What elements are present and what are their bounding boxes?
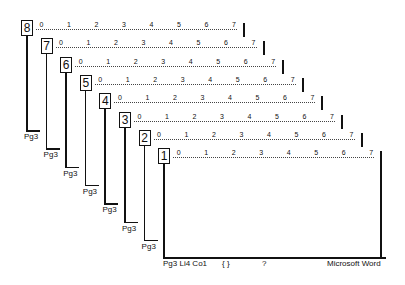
ruler-tick-label: 4: [247, 113, 252, 120]
ruler-tick-label: 2: [172, 94, 177, 101]
page-number-box: 1: [158, 148, 170, 164]
ruler: 01234567: [134, 113, 335, 122]
ruler-tick-label: 4: [227, 94, 232, 101]
ruler-tick-label: 0: [157, 131, 162, 138]
page-right-edge: [361, 133, 363, 147]
page-number-box: 6: [60, 57, 72, 73]
ruler-tick-label: 3: [220, 113, 225, 120]
ruler-tick-label: 4: [169, 39, 174, 46]
ruler-tick-label: 3: [239, 131, 244, 138]
ruler-tick-label: 4: [188, 58, 193, 65]
ruler-tick-label: 0: [117, 94, 122, 101]
ruler-tick-label: 4: [267, 131, 272, 138]
page-footer-label: Pg3: [24, 133, 38, 141]
page-number-box: 4: [99, 93, 111, 109]
ruler-tick-label: 1: [165, 113, 170, 120]
ruler-tick-label: 6: [282, 94, 287, 101]
ruler-tick-label: 6: [263, 76, 268, 83]
ruler-tick-label: 1: [86, 39, 91, 46]
ruler-tick-label: 0: [98, 76, 103, 83]
ruler-tick-label: 7: [251, 39, 256, 46]
ruler-tick-label: 2: [231, 149, 236, 156]
page-number-box: 7: [41, 38, 53, 54]
ruler-tick-label: 3: [180, 76, 185, 83]
page-number-box: 5: [80, 75, 92, 91]
page-right-edge: [380, 151, 382, 258]
page-number-box: 8: [21, 20, 33, 36]
status-help: ?: [262, 259, 266, 268]
page-bottom-edge: [65, 167, 79, 169]
ruler-tick-label: 7: [232, 21, 237, 28]
ruler-tick-label: 6: [243, 58, 248, 65]
ruler-tick-label: 2: [153, 76, 158, 83]
page-left-edge: [65, 73, 67, 167]
ruler-tick-label: 6: [224, 39, 229, 46]
ruler: 01234567: [56, 39, 257, 48]
page-number-box: 3: [119, 112, 131, 128]
ruler-tick-label: 5: [314, 149, 319, 156]
ruler-tick-label: 7: [271, 58, 276, 65]
ruler-tick-label: 3: [161, 58, 166, 65]
ruler-tick-label: 5: [235, 76, 240, 83]
ruler-tick-label: 6: [322, 131, 327, 138]
page-footer-label: Pg3: [142, 243, 156, 251]
ruler-tick-label: 2: [192, 113, 197, 120]
ruler-tick-label: 3: [200, 94, 205, 101]
ruler-tick-label: 4: [208, 76, 213, 83]
ruler-tick-label: 0: [137, 113, 142, 120]
page-left-edge: [124, 128, 126, 222]
ruler-tick-label: 0: [59, 39, 64, 46]
status-app-name: Microsoft Word: [327, 259, 381, 268]
ruler: 01234567: [114, 94, 315, 103]
status-braces: { }: [222, 259, 230, 268]
ruler-tick-label: 1: [125, 76, 130, 83]
ruler-tick-label: 2: [94, 21, 99, 28]
page-right-edge: [302, 78, 304, 92]
page-footer-label: Pg3: [63, 170, 77, 178]
page-footer-label: Pg3: [44, 151, 58, 159]
ruler-tick-label: 1: [145, 94, 150, 101]
page-left-edge: [163, 164, 165, 258]
ruler-tick-label: 3: [122, 21, 127, 28]
ruler: 01234567: [154, 131, 355, 140]
ruler-tick-label: 5: [294, 131, 299, 138]
ruler-tick-label: 3: [141, 39, 146, 46]
ruler-tick-label: 5: [275, 113, 280, 120]
ruler-tick-label: 1: [204, 149, 209, 156]
ruler-tick-label: 5: [196, 39, 201, 46]
ruler-tick-label: 0: [39, 21, 44, 28]
ruler-tick-label: 5: [216, 58, 221, 65]
page-footer-label: Pg3: [122, 225, 136, 233]
ruler-tick-label: 7: [310, 94, 315, 101]
page-left-edge: [46, 54, 48, 148]
page-footer-label: Pg3: [102, 206, 116, 214]
ruler: 01234567: [36, 21, 237, 30]
ruler-tick-label: 7: [349, 131, 354, 138]
page-bottom-edge: [124, 222, 138, 224]
page-footer-label: Pg3: [83, 188, 97, 196]
ruler-tick-label: 1: [184, 131, 189, 138]
page-right-edge: [243, 23, 245, 37]
ruler-tick-label: 7: [369, 149, 374, 156]
ruler-tick-label: 2: [212, 131, 217, 138]
page-right-edge: [263, 41, 265, 55]
ruler-tick-label: 6: [341, 149, 346, 156]
page-left-edge: [85, 91, 87, 185]
ruler-tick-label: 7: [330, 113, 335, 120]
ruler-tick-label: 4: [286, 149, 291, 156]
ruler: 01234567: [173, 149, 374, 158]
page-left-edge: [144, 146, 146, 240]
ruler-tick-label: 4: [149, 21, 154, 28]
ruler-tick-label: 6: [302, 113, 307, 120]
ruler-tick-label: 0: [78, 58, 83, 65]
ruler-tick-label: 5: [177, 21, 182, 28]
page-left-edge: [104, 109, 106, 203]
ruler-tick-label: 1: [106, 58, 111, 65]
ruler-tick-label: 1: [67, 21, 72, 28]
ruler-tick-label: 6: [204, 21, 209, 28]
ruler-tick-label: 3: [259, 149, 264, 156]
ruler-tick-label: 5: [255, 94, 260, 101]
ruler: 01234567: [75, 58, 276, 67]
ruler: 01234567: [95, 76, 296, 85]
page-right-edge: [321, 96, 323, 110]
